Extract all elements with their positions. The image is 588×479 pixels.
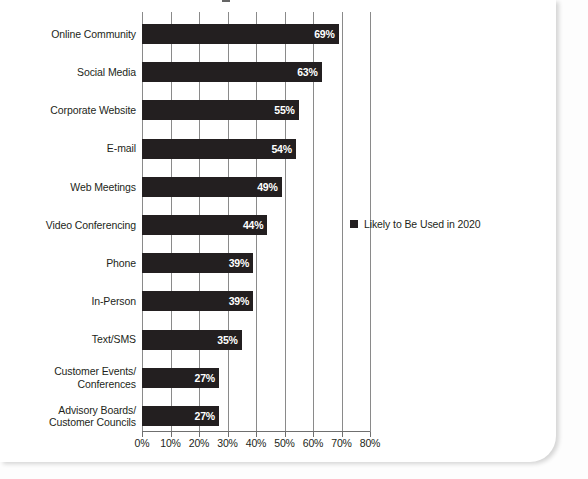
bar-row: 39% [142,244,370,282]
bar: 54% [142,139,296,159]
x-tick-label: 80% [350,437,390,449]
category-label: Advisory Boards/ Customer Councils [2,404,136,429]
bar-row: 27% [142,359,370,397]
category-label: Online Community [2,28,136,41]
bar: 27% [142,368,219,388]
bar-chart: Online CommunitySocial MediaCorporate We… [0,0,588,479]
bar: 49% [142,177,282,197]
x-axis-tick-labels: 0%10%20%30%40%50%60%70%80% [0,437,588,453]
bar-value-label: 55% [274,105,294,116]
category-label: In-Person [2,295,136,308]
plot-area: 69%63%55%54%49%44%39%39%35%27%27% [142,12,370,432]
bar-row: 54% [142,130,370,168]
bar: 39% [142,253,253,273]
bar-value-label: 27% [195,373,215,384]
bar: 39% [142,291,253,311]
bar-value-label: 39% [229,258,249,269]
chart-legend: Likely to Be Used in 2020 [350,218,481,230]
bar: 55% [142,100,299,120]
bar: 27% [142,406,219,426]
category-label: Social Media [2,66,136,79]
category-label: Video Conferencing [2,219,136,232]
category-label: Web Meetings [2,181,136,194]
legend-label: Likely to Be Used in 2020 [364,218,481,230]
legend-swatch-icon [350,220,358,228]
bar-value-label: 44% [243,220,263,231]
bar-row: 49% [142,168,370,206]
category-label: Corporate Website [2,104,136,117]
bar-value-label: 27% [195,411,215,422]
bar-value-label: 49% [257,182,277,193]
bar-value-label: 63% [297,67,317,78]
bar: 69% [142,24,339,44]
clipped-title-remnant [222,0,230,2]
bar: 35% [142,330,242,350]
bar-value-label: 69% [314,29,334,40]
bar-value-label: 54% [271,143,291,154]
bar-row: 35% [142,321,370,359]
bar: 63% [142,62,322,82]
bar-value-label: 39% [229,296,249,307]
bar-row: 39% [142,282,370,320]
bar-row: 55% [142,91,370,129]
bar-value-label: 35% [217,334,237,345]
bar-row: 63% [142,53,370,91]
bar-row: 44% [142,206,370,244]
bar-row: 69% [142,15,370,53]
category-label: Phone [2,257,136,270]
bar-row: 27% [142,397,370,435]
category-label: Customer Events/ Conferences [2,365,136,390]
category-label: E-mail [2,142,136,155]
bar: 44% [142,215,267,235]
category-label: Text/SMS [2,333,136,346]
